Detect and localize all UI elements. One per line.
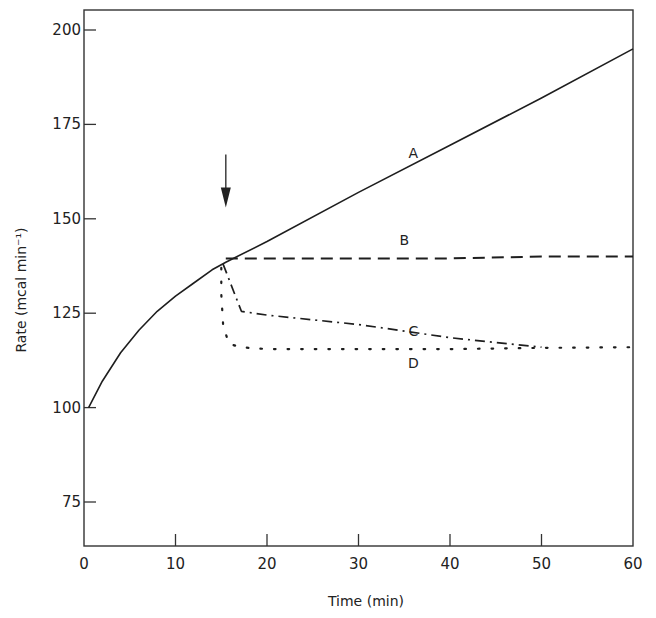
y-tick-label: 75 (62, 493, 81, 511)
arrow-down-icon (221, 187, 231, 207)
x-axis-label: Time (min) (327, 593, 404, 609)
y-axis-label: Rate (mcal min⁻¹) (13, 227, 29, 352)
curve-label-b: B (399, 232, 409, 248)
chart: 75100125150175200 0102030405060 ABCD Tim… (0, 0, 656, 618)
y-tick-label: 125 (52, 304, 81, 322)
x-axis-ticks: 0102030405060 (79, 534, 642, 573)
curve-c (223, 264, 541, 347)
curve-b (226, 257, 633, 259)
curve-label-c: C (409, 323, 419, 339)
y-tick-label: 200 (52, 21, 81, 39)
annotations (221, 155, 231, 208)
curve-label-d: D (408, 355, 419, 371)
x-tick-label: 20 (257, 555, 276, 573)
x-tick-label: 10 (166, 555, 185, 573)
y-tick-label: 175 (52, 115, 81, 133)
x-tick-label: 40 (440, 555, 459, 573)
y-tick-label: 100 (52, 399, 81, 417)
x-tick-label: 30 (349, 555, 368, 573)
curve-d (221, 268, 633, 349)
x-tick-label: 50 (532, 555, 551, 573)
y-axis-ticks: 75100125150175200 (52, 21, 96, 511)
curve-label-a: A (409, 145, 419, 161)
plot-frame (84, 10, 633, 546)
plot-curves (89, 49, 633, 408)
y-tick-label: 150 (52, 210, 81, 228)
x-tick-label: 0 (79, 555, 89, 573)
curve-a (89, 49, 633, 408)
x-tick-label: 60 (623, 555, 642, 573)
plot-border (84, 10, 633, 546)
